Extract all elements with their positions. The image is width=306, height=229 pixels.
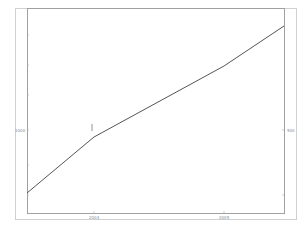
right-y-label: 500 bbox=[287, 128, 295, 133]
x-label-2004: 2004 bbox=[89, 215, 100, 220]
plot-area bbox=[28, 9, 285, 214]
x-label-2005: 2005 bbox=[219, 215, 230, 220]
line-chart: 1000 500 2004 2005 bbox=[0, 0, 306, 229]
left-y-label: 1000 bbox=[15, 128, 26, 133]
